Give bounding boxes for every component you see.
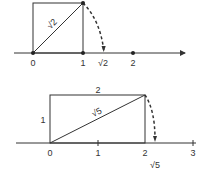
tick-label-sqrt5: √5	[150, 160, 160, 170]
diagonal-sqrt5	[50, 95, 145, 143]
point-1	[81, 51, 85, 55]
arc-arrowhead-top	[102, 46, 106, 52]
tick-label-sqrt2: √2	[98, 58, 108, 68]
diagonal-sqrt2	[33, 3, 83, 53]
arc-arrowhead-bottom	[153, 136, 157, 142]
dashed-arc-sqrt2	[83, 3, 104, 50]
corner-point	[81, 1, 85, 5]
tick-label-3: 3	[190, 148, 195, 158]
sqrt2-diagram: 0 1 √2 2 √2	[14, 1, 185, 68]
dashed-arc-sqrt5	[145, 95, 155, 139]
tick-label-1: 1	[95, 148, 100, 158]
tick-label-0: 0	[47, 148, 52, 158]
tick-label-2: 2	[142, 148, 147, 158]
diagram-canvas: 0 1 √2 2 √2 0 1 2 3 √5 2 1 √5	[0, 0, 202, 171]
tick-label-1: 1	[80, 58, 85, 68]
point-0	[31, 51, 35, 55]
sqrt5-diagram: 0 1 2 3 √5 2 1 √5	[16, 85, 196, 170]
side-label-left: 1	[40, 115, 45, 125]
point-2	[131, 51, 135, 55]
tick-label-2: 2	[130, 58, 135, 68]
tick-label-0: 0	[30, 58, 35, 68]
side-label-top: 2	[95, 85, 100, 95]
